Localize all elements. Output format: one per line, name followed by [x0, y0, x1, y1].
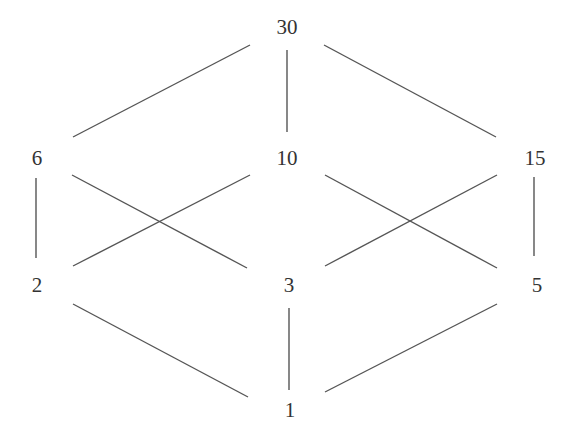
node-15: 15: [525, 148, 546, 169]
node-3: 3: [284, 275, 295, 296]
node-6: 6: [32, 148, 43, 169]
edge-layer: [0, 0, 571, 445]
hasse-diagram: 30610152351: [0, 0, 571, 445]
node-5: 5: [532, 275, 543, 296]
node-10: 10: [277, 148, 298, 169]
node-1: 1: [285, 400, 296, 421]
edge-5-1: [325, 304, 497, 392]
edge-10-2: [73, 175, 250, 266]
edge-2-1: [73, 304, 248, 397]
node-2: 2: [32, 275, 43, 296]
node-30: 30: [277, 17, 298, 38]
edge-30-15: [324, 45, 496, 137]
edge-30-6: [73, 45, 250, 137]
